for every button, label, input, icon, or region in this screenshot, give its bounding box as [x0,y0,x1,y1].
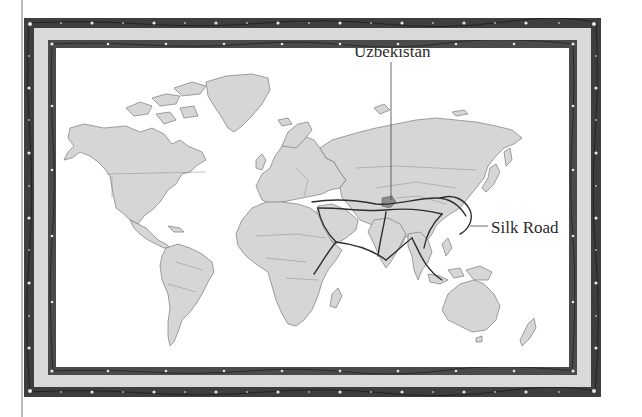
north-america [64,124,206,224]
central-america [130,220,170,248]
india [368,218,406,268]
australia [442,280,500,332]
frame-mat: Uzbekistan Silk Road [34,28,591,387]
new-zealand [520,318,536,346]
world-map: Uzbekistan Silk Road [56,48,569,367]
inner-frame: Uzbekistan Silk Road [48,40,577,375]
south-america [160,244,214,346]
page-margin-rule [21,0,23,417]
world-map-graphic [56,48,569,367]
greenland [206,74,270,132]
outer-frame: Uzbekistan Silk Road [24,18,601,397]
uzbekistan-label: Uzbekistan [354,48,430,62]
silk-road-label: Silk Road [491,218,559,238]
